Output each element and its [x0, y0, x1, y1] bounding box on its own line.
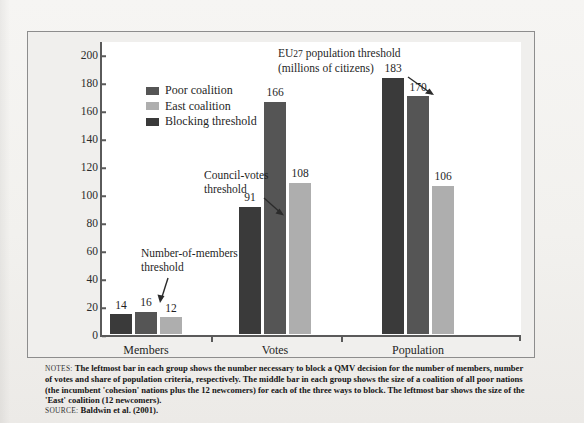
x-axis-group-label-members: Members — [123, 343, 168, 358]
y-axis-tick-mark — [102, 223, 106, 225]
bar-population-east-coalition: 106 — [432, 186, 454, 334]
figure-notes: NOTES: The leftmost bar in each group sh… — [45, 363, 525, 406]
bar-value-label: 106 — [434, 171, 451, 183]
annotation-council-line1: Council-votes — [204, 169, 269, 183]
y-axis-tick-label: 200 — [38, 50, 98, 62]
source-label: SOURCE: — [45, 406, 78, 415]
bar-votes-east-coalition: 108 — [289, 183, 311, 334]
y-axis-tick-label: 120 — [38, 162, 98, 174]
arrow-eu27-icon — [406, 74, 442, 102]
legend-swatch-poor-coalition — [146, 87, 159, 95]
x-axis-end-tick — [519, 335, 521, 341]
y-axis-tick-mark — [102, 139, 106, 141]
y-axis-tick-mark — [102, 167, 106, 169]
y-axis-tick-label: 20 — [38, 302, 98, 314]
y-axis-tick-mark — [102, 195, 106, 197]
arrow-members-icon — [154, 276, 176, 310]
legend-label-poor-coalition: Poor coalition — [165, 83, 233, 99]
bar-population-poor-coalition: 170 — [407, 96, 429, 334]
y-axis-tick-mark — [102, 251, 106, 253]
y-axis-line — [100, 42, 102, 336]
bar-value-label: 108 — [291, 168, 308, 180]
figure-container: 020406080100120140160180200 141612911661… — [27, 31, 535, 358]
y-axis-tick-mark — [102, 83, 106, 85]
y-axis-tick-mark — [102, 279, 106, 281]
legend-item-blocking-threshold: Blocking threshold — [146, 114, 257, 130]
x-axis-group-label-population: Population — [392, 343, 444, 358]
legend-swatch-blocking-threshold — [146, 118, 159, 126]
figure-source: SOURCE: Baldwin et al. (2001). — [45, 405, 158, 415]
bar-population-blocking-threshold: 183 — [382, 78, 404, 334]
bar-members-blocking-threshold: 14 — [110, 314, 132, 334]
x-axis-group-label-votes: Votes — [262, 343, 288, 358]
chart-legend: Poor coalition East coalition Blocking t… — [146, 83, 257, 130]
legend-label-blocking-threshold: Blocking threshold — [165, 114, 257, 130]
y-axis-tick-mark — [102, 335, 106, 337]
annotation-eu27-line2: (millions of citizens) — [278, 62, 401, 76]
y-axis-tick-label: 160 — [38, 106, 98, 118]
bar-members-poor-coalition: 16 — [135, 312, 157, 334]
notes-text: The leftmost bar in each group shows the… — [45, 363, 525, 405]
y-axis-tick-mark — [102, 55, 106, 57]
legend-item-poor-coalition: Poor coalition — [146, 83, 257, 99]
notes-label: NOTES: — [45, 364, 73, 373]
bar-value-label: 166 — [266, 87, 283, 99]
annotation-number-of-members-threshold: Number-of-members threshold — [141, 247, 238, 274]
x-axis-tick-mark — [211, 337, 213, 342]
y-axis-tick-label: 40 — [38, 274, 98, 286]
bar-members-east-coalition: 12 — [160, 317, 182, 334]
annotation-eu27-population-threshold: EU27 population threshold (millions of c… — [278, 47, 401, 75]
annotation-eu27-line1: EU27 population threshold — [278, 47, 401, 62]
y-axis-tick-label: 180 — [38, 78, 98, 90]
y-axis-tick-label: 140 — [38, 134, 98, 146]
bar-votes-blocking-threshold: 91 — [239, 207, 261, 334]
y-axis-tick-mark — [102, 307, 106, 309]
y-axis-tick-label: 80 — [38, 218, 98, 230]
y-axis-tick-label: 100 — [38, 190, 98, 202]
bar-value-label: 14 — [115, 300, 127, 312]
y-axis-tick-mark — [102, 111, 106, 113]
bar-value-label: 16 — [140, 297, 152, 309]
x-axis-line — [100, 335, 521, 337]
x-axis-tick-mark — [341, 337, 343, 342]
legend-label-east-coalition: East coalition — [165, 99, 231, 115]
source-text: Baldwin et al. (2001). — [80, 405, 158, 415]
y-axis-tick-label: 60 — [38, 246, 98, 258]
annotation-council-votes-threshold: Council-votes threshold — [204, 169, 269, 196]
arrow-council-icon — [262, 196, 292, 222]
annotation-members-line2: threshold — [141, 261, 238, 275]
y-axis-tick-label: 0 — [38, 330, 98, 342]
annotation-members-line1: Number-of-members — [141, 247, 238, 261]
legend-item-east-coalition: East coalition — [146, 99, 257, 115]
y-axis-labels: 020406080100120140160180200 — [28, 32, 98, 359]
annotation-council-line2: threshold — [204, 183, 269, 197]
legend-swatch-east-coalition — [146, 102, 159, 110]
